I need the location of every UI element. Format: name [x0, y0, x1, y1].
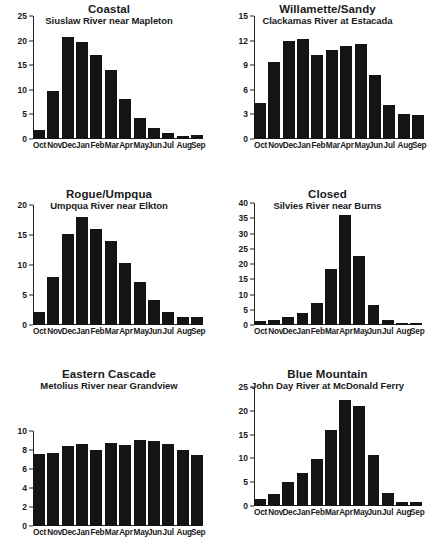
bar — [177, 136, 189, 139]
chart-subtitle: Metolius River near Grandview — [0, 381, 218, 391]
x-axis-tick-label: Aug — [177, 141, 189, 150]
x-axis-tick-label: Jan — [76, 141, 88, 150]
small-multiples-grid: CoastalSiuslaw River near Mapleton051015… — [0, 0, 437, 552]
x-axis-tick-label: Sep — [191, 141, 203, 150]
bar — [76, 42, 88, 139]
bar — [76, 217, 88, 325]
bar — [33, 454, 45, 526]
chart-panel: Willamette/SandyClackamas River at Estac… — [218, 0, 437, 185]
bar — [340, 46, 352, 139]
y-axis-tick-label: 5 — [22, 290, 27, 300]
y-axis-tick-label: 0 — [22, 320, 27, 330]
x-axis-tick-label: Sep — [410, 327, 422, 336]
bar — [162, 133, 174, 139]
bar — [353, 256, 365, 325]
y-axis-tick-label: 25 — [239, 244, 248, 254]
bar — [90, 229, 102, 325]
bar-series — [254, 203, 422, 325]
bar — [396, 502, 408, 506]
x-axis-tick-label: May — [134, 327, 146, 336]
bar — [282, 317, 294, 325]
bar — [325, 430, 337, 506]
chart-panel: Eastern CascadeMetolius River near Grand… — [0, 365, 218, 552]
x-axis-tick-label: Feb — [90, 327, 102, 336]
x-axis-tick-label: Jun — [148, 528, 160, 537]
bar — [254, 499, 266, 506]
y-axis-tick-label: 15 — [18, 230, 27, 240]
chart-title-block: Eastern CascadeMetolius River near Grand… — [0, 368, 218, 391]
x-axis-tick-label: Jul — [162, 528, 174, 537]
x-axis-tick-label: Dec — [283, 141, 295, 150]
x-axis-tick-label: Jul — [162, 141, 174, 150]
bar — [134, 282, 146, 325]
bar — [325, 269, 337, 325]
chart-title: Coastal — [0, 3, 218, 15]
x-axis-tick-label: Dec — [282, 327, 294, 336]
plot-area: 0510152025303540OctNovDecJanFebMarAprMay… — [254, 203, 422, 325]
x-axis-tick-label: Mar — [326, 141, 338, 150]
bar-series — [254, 16, 424, 139]
bar — [382, 493, 394, 506]
bar — [297, 313, 309, 325]
x-axis-tick-label: Dec — [282, 508, 294, 517]
x-axis-tick-label: Jul — [162, 327, 174, 336]
x-axis-tick-label: Apr — [340, 141, 352, 150]
bar — [76, 444, 88, 526]
bar — [268, 62, 280, 139]
x-axis-tick-label: Nov — [268, 141, 280, 150]
x-axis-tick-label: Jan — [297, 508, 309, 517]
x-axis-labels: OctNovDecJanFebMarAprMayJunJulAugSep — [33, 141, 203, 150]
bar — [254, 321, 266, 325]
y-axis-tick-label: 30 — [239, 229, 248, 239]
bar — [297, 39, 309, 139]
x-axis-tick-label: Jan — [76, 528, 88, 537]
y-axis-tick-label: 0 — [243, 501, 248, 511]
y-axis-tick-label: 20 — [239, 406, 248, 416]
bar — [412, 115, 424, 139]
bar — [396, 323, 408, 325]
bar — [90, 55, 102, 139]
y-axis-tick-label: 8 — [22, 445, 27, 455]
bar — [177, 450, 189, 526]
bar — [119, 99, 131, 139]
x-axis-tick-label: Sep — [191, 327, 203, 336]
bar — [119, 263, 131, 325]
y-axis-tick-label: 10 — [18, 260, 27, 270]
bar — [311, 459, 323, 506]
x-axis-labels: OctNovDecJanFebMarAprMayJunJulAugSep — [254, 508, 422, 517]
plot-area: 0510152025OctNovDecJanFebMarAprMayJunJul… — [33, 16, 203, 139]
bar-series — [254, 387, 422, 506]
bar — [297, 473, 309, 506]
bar — [119, 445, 131, 526]
x-axis-tick-label: Jan — [297, 141, 309, 150]
x-axis-tick-label: May — [134, 141, 146, 150]
x-axis-labels: OctNovDecJanFebMarAprMayJunJulAugSep — [33, 528, 203, 537]
x-axis-tick-label: Oct — [33, 528, 45, 537]
x-axis-tick-label: Jul — [383, 141, 395, 150]
bar — [339, 215, 351, 325]
y-axis-tick-label: 0 — [243, 320, 248, 330]
bar — [353, 406, 365, 506]
y-axis-tick-label: 15 — [239, 274, 248, 284]
y-axis-tick-label: 4 — [22, 483, 27, 493]
y-axis-tick-label: 6 — [22, 464, 27, 474]
y-axis-tick-label: 9 — [243, 60, 248, 70]
x-axis-tick-label: Mar — [325, 508, 337, 517]
y-axis-tick-label: 10 — [18, 85, 27, 95]
bar — [62, 234, 74, 325]
bar — [148, 441, 160, 527]
x-axis-tick-label: Sep — [412, 141, 424, 150]
chart-title: Willamette/Sandy — [218, 3, 437, 15]
chart-title: Rogue/Umpqua — [0, 188, 218, 200]
x-axis-tick-label: Aug — [177, 327, 189, 336]
x-axis-tick-label: Aug — [177, 528, 189, 537]
y-axis-tick-label: 5 — [243, 477, 248, 487]
chart-title: Blue Mountain — [218, 368, 437, 380]
x-axis-labels: OctNovDecJanFebMarAprMayJunJulAugSep — [254, 327, 422, 336]
bar-series — [33, 431, 203, 526]
bar — [311, 303, 323, 325]
y-axis-tick-label: 20 — [18, 36, 27, 46]
y-axis-tick-label: 0 — [243, 134, 248, 144]
bar — [162, 312, 174, 325]
bar — [177, 317, 189, 325]
